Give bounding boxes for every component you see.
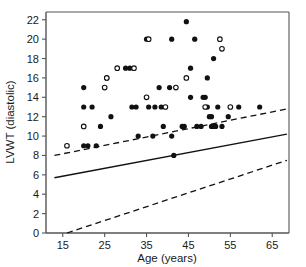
data-point-filled <box>205 75 210 80</box>
lower-dashed-limit <box>67 160 287 233</box>
data-point-filled <box>161 124 166 129</box>
x-tick-label: 25 <box>99 239 111 251</box>
x-tick-label: 55 <box>224 239 236 251</box>
y-tick-label: 16 <box>27 72 39 84</box>
data-point-open <box>146 37 151 42</box>
data-point-open <box>203 105 208 110</box>
y-tick-label: 0 <box>33 227 39 239</box>
y-tick-label: 18 <box>27 53 39 65</box>
data-point-open <box>218 37 223 42</box>
y-tick-label: 14 <box>27 91 39 103</box>
y-axis-ticks: 0246810121416182022 <box>27 14 46 239</box>
data-point-filled <box>169 37 174 42</box>
data-point-filled <box>188 95 193 100</box>
data-point-filled <box>85 143 90 148</box>
data-point-filled <box>108 114 113 119</box>
y-tick-label: 10 <box>27 130 39 142</box>
data-point-filled <box>203 95 208 100</box>
y-tick-label: 4 <box>33 188 39 200</box>
data-point-open <box>102 85 107 90</box>
data-point-open <box>104 76 109 81</box>
data-point-filled <box>133 104 138 109</box>
data-point-open <box>132 66 137 71</box>
data-point-filled <box>188 66 193 71</box>
data-point-filled <box>171 153 176 158</box>
data-point-filled <box>81 104 86 109</box>
data-point-filled <box>236 104 241 109</box>
y-tick-label: 6 <box>33 169 39 181</box>
data-point-filled <box>209 114 214 119</box>
y-tick-label: 2 <box>33 208 39 220</box>
y-axis-title: LVWT (diastolic) <box>4 80 16 163</box>
data-point-open <box>65 143 70 148</box>
y-tick-label: 20 <box>27 33 39 45</box>
data-point-open <box>81 124 86 129</box>
data-point-markers <box>65 19 263 158</box>
data-point-filled <box>192 37 197 42</box>
chart-figure: 0246810121416182022 152535455565 Age (ye… <box>0 0 306 267</box>
x-axis-title: Age (years) <box>137 252 197 264</box>
data-point-filled <box>184 19 189 24</box>
x-tick-label: 65 <box>266 239 278 251</box>
data-point-open <box>163 105 168 110</box>
data-point-filled <box>211 56 216 61</box>
data-point-open <box>184 76 189 81</box>
data-point-filled <box>94 143 99 148</box>
data-point-open <box>115 66 120 71</box>
data-point-filled <box>169 133 174 138</box>
data-point-filled <box>152 104 157 109</box>
data-point-filled <box>146 104 151 109</box>
data-point-open <box>220 47 225 52</box>
scatter-plot: 0246810121416182022 152535455565 Age (ye… <box>0 0 306 267</box>
data-point-filled <box>81 85 86 90</box>
data-point-filled <box>167 85 172 90</box>
data-point-filled <box>198 124 203 129</box>
data-point-filled <box>219 124 224 129</box>
data-point-filled <box>257 104 262 109</box>
data-point-filled <box>150 133 155 138</box>
data-point-filled <box>226 114 231 119</box>
x-axis-ticks: 152535455565 <box>57 233 279 251</box>
data-point-open <box>144 95 149 100</box>
y-tick-label: 12 <box>27 111 39 123</box>
x-tick-label: 45 <box>182 239 194 251</box>
data-point-filled <box>182 124 187 129</box>
data-point-open <box>174 85 179 90</box>
data-point-filled <box>89 104 94 109</box>
upper-dashed-limit <box>54 109 287 156</box>
data-point-filled <box>98 124 103 129</box>
data-point-filled <box>136 133 141 138</box>
data-point-filled <box>213 124 218 129</box>
reference-lines <box>54 109 287 233</box>
data-point-open <box>228 105 233 110</box>
data-point-filled <box>215 104 220 109</box>
y-tick-label: 22 <box>27 14 39 26</box>
data-point-filled <box>157 85 162 90</box>
x-tick-label: 35 <box>140 239 152 251</box>
x-tick-label: 15 <box>57 239 69 251</box>
y-tick-label: 8 <box>33 149 39 161</box>
